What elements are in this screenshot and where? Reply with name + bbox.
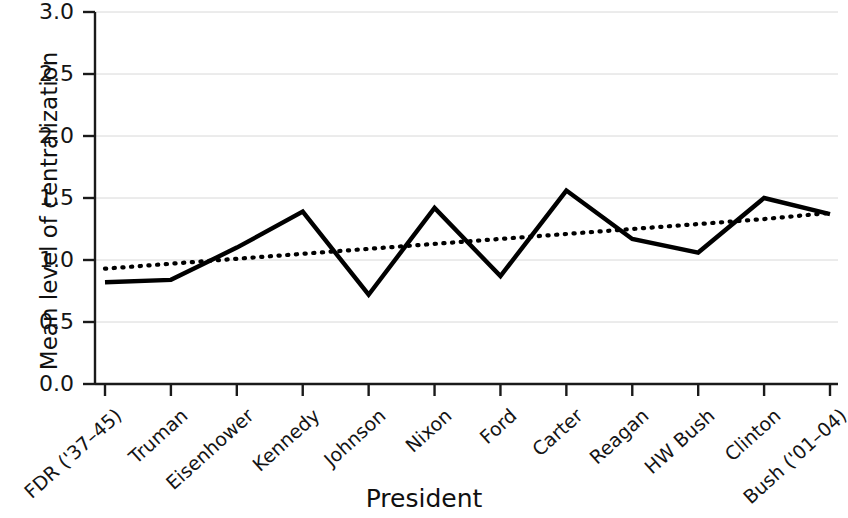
y-axis-tick-label: 3.0: [12, 1, 74, 23]
chart-figure: 0.00.51.01.52.02.53.0 Mean level of cent…: [0, 0, 848, 518]
centralization-line-series: [105, 191, 830, 295]
gridlines-group: [95, 12, 838, 322]
y-axis-tick-label: 0.0: [12, 373, 74, 395]
x-axis-title: President: [0, 484, 848, 513]
y-axis-ticks-group: [83, 12, 95, 384]
y-axis-title: Mean level of centralization: [36, 46, 62, 376]
